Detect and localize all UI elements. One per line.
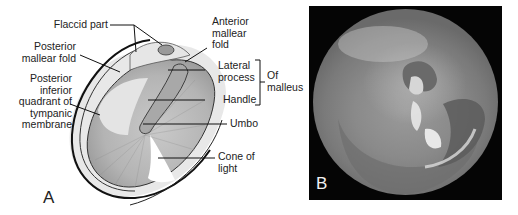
label-line: quadrant of: [2, 96, 72, 108]
label-of-malleus: Of malleus: [267, 70, 303, 93]
label-handle: Handle: [223, 94, 256, 106]
label-umbo: Umbo: [230, 118, 258, 130]
label-line: Lateral: [218, 60, 255, 72]
label-line: malleus: [267, 82, 303, 94]
label-line: Of: [267, 70, 303, 82]
otoscope-view: [313, 9, 498, 195]
panel-letter-b: B: [316, 174, 327, 194]
label-line: Posterior: [4, 41, 76, 53]
label-line: light: [218, 163, 255, 175]
label-line: Posterior: [2, 73, 72, 85]
label-anterior-mallear-fold: Anterior mallear fold: [212, 16, 249, 51]
label-line: membrane: [2, 119, 72, 131]
label-line: mallear fold: [4, 53, 76, 65]
label-line: Cone of: [218, 151, 255, 163]
eardrum-photo-features: [313, 9, 498, 195]
panel-a-illustration: Flaccid part Anterior mallear fold Poste…: [0, 0, 300, 215]
label-line: process: [218, 72, 255, 84]
label-posterior-inferior-quadrant: Posterior inferior quadrant of tympanic …: [2, 73, 72, 131]
label-posterior-mallear-fold: Posterior mallear fold: [4, 41, 76, 64]
label-lateral-process: Lateral process: [218, 60, 255, 83]
panel-letter-a: A: [43, 188, 54, 208]
label-flaccid-part: Flaccid part: [40, 19, 108, 31]
label-cone-of-light: Cone of light: [218, 151, 255, 174]
panel-b-otoscopic-photo: B: [309, 6, 502, 200]
label-line: Anterior: [212, 16, 249, 28]
label-line: fold: [212, 39, 249, 51]
